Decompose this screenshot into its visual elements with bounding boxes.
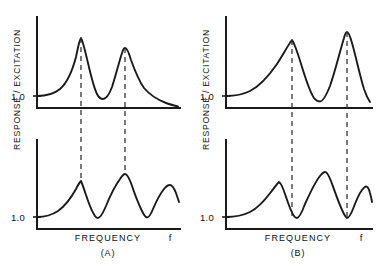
panel-b-bottom-ytick-label: 1.0 <box>200 212 214 223</box>
panel-a-top-subplot: 1.0 <box>11 17 180 108</box>
panel-a: RESPONSE / EXCITATION 1.0 1.0 FREQUENCY <box>11 17 180 258</box>
panel-b: RESPONSE / EXCITATION 1.0 1.0 FREQUENCY … <box>200 17 372 258</box>
panel-b-bottom-curve <box>226 172 372 218</box>
panel-b-top-axes <box>226 17 372 108</box>
panel-b-x-axis-label: FREQUENCY <box>265 233 331 243</box>
panel-a-bottom-axes <box>37 140 180 229</box>
panel-a-bottom-subplot: 1.0 FREQUENCY f (A) <box>11 140 180 258</box>
panel-b-caption: (B) <box>291 248 306 258</box>
panel-a-x-axis-label: FREQUENCY <box>75 233 141 243</box>
figure-container: RESPONSE / EXCITATION 1.0 1.0 FREQUENCY <box>0 0 378 265</box>
panel-a-bottom-ytick-label: 1.0 <box>11 212 25 223</box>
panel-b-frequency-symbol: f <box>360 232 363 243</box>
panel-b-bottom-subplot: 1.0 FREQUENCY f (B) <box>200 140 372 258</box>
panel-a-top-ytick-label: 1.0 <box>11 91 25 102</box>
panel-b-top-subplot: 1.0 <box>200 17 372 108</box>
panel-a-frequency-symbol: f <box>169 232 172 243</box>
panel-b-top-ytick-label: 1.0 <box>200 91 214 102</box>
panel-a-caption: (A) <box>101 248 116 258</box>
panel-a-top-curve <box>37 38 178 107</box>
figure-svg: RESPONSE / EXCITATION 1.0 1.0 FREQUENCY <box>0 0 378 265</box>
panel-a-bottom-curve <box>37 174 179 218</box>
panel-b-top-curve <box>226 32 370 102</box>
